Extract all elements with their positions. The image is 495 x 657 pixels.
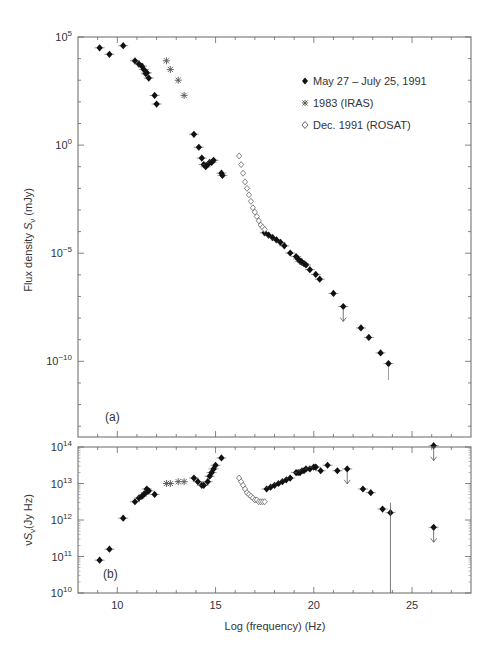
x-tick-label: 25 xyxy=(406,599,418,611)
filled-diamond-marker xyxy=(334,467,340,474)
filled-diamond-marker xyxy=(344,465,350,472)
filled-diamond-marker xyxy=(368,489,374,496)
panel-b-frame xyxy=(78,447,471,593)
filled-diamond-marker xyxy=(151,92,157,99)
filled-diamond-icon xyxy=(302,78,308,85)
open-diamond-marker xyxy=(237,153,242,159)
y-tick-label: 100 xyxy=(55,137,72,151)
open-diamond-marker xyxy=(240,170,245,176)
y-tick-label: 1014 xyxy=(51,439,73,453)
open-diamond-marker xyxy=(246,192,251,198)
y-tick-label: 105 xyxy=(55,29,72,43)
filled-diamond-marker xyxy=(106,546,112,553)
filled-diamond-marker xyxy=(153,100,159,107)
x-tick-label: 10 xyxy=(111,599,123,611)
x-tick-label: 15 xyxy=(209,599,221,611)
asterisk-marker xyxy=(167,480,174,487)
filled-diamond-marker xyxy=(358,324,364,331)
filled-diamond-marker xyxy=(120,515,126,522)
panel-a: 10510010−510−10 (a) Flux density Sν (mJy… xyxy=(22,29,471,461)
panel-a-ylabel: Flux density Sν (mJy) xyxy=(22,188,37,292)
legend-label: 1983 (IRAS) xyxy=(313,97,374,109)
filled-diamond-marker xyxy=(379,505,385,512)
filled-diamond-marker xyxy=(96,44,102,51)
filled-diamond-marker xyxy=(307,266,313,273)
asterisk-marker xyxy=(181,92,188,99)
filled-diamond-marker xyxy=(366,334,372,341)
open-diamond-marker xyxy=(238,162,243,168)
legend: May 27 – July 25, 1991 1983 (IRAS) Dec. … xyxy=(302,75,427,131)
y-tick-label: 1011 xyxy=(51,549,72,563)
panel-b-ylabel: νSν(Jy Hz) xyxy=(22,494,37,546)
panel-a-ytick-labels: 10510010−510−10 xyxy=(46,29,72,367)
legend-item-rosat-1991: Dec. 1991 (ROSAT) xyxy=(302,119,411,131)
y-tick-label: 10−10 xyxy=(46,353,72,367)
legend-label: May 27 – July 25, 1991 xyxy=(313,75,427,87)
filled-diamond-marker xyxy=(151,491,157,498)
panel-b-ytick-labels: 10141013101210111010 xyxy=(51,439,73,599)
legend-item-may-july-1991: May 27 – July 25, 1991 xyxy=(302,75,427,87)
filled-diamond-marker xyxy=(377,349,383,356)
x-tick-labels: 10152025 xyxy=(111,599,418,611)
filled-diamond-marker xyxy=(385,360,391,367)
asterisk-marker xyxy=(163,57,170,64)
filled-diamond-marker xyxy=(430,524,436,531)
asterisk-icon xyxy=(302,100,308,106)
y-tick-label: 1013 xyxy=(51,476,73,490)
y-tick-label: 10−5 xyxy=(51,245,73,259)
panel-b-data-points xyxy=(95,454,439,593)
panel-b: 10141013101210111010 10152025 (b) νSν(Jy… xyxy=(22,439,471,632)
open-diamond-icon xyxy=(302,122,308,129)
filled-diamond-marker xyxy=(96,557,102,564)
legend-item-iras-1983: 1983 (IRAS) xyxy=(302,97,374,109)
filled-diamond-marker xyxy=(317,467,323,474)
filled-diamond-marker xyxy=(287,249,293,256)
panel-b-label: (b) xyxy=(103,567,118,581)
asterisk-marker xyxy=(181,478,188,485)
panel-a-data-points xyxy=(95,42,439,461)
filled-diamond-marker xyxy=(199,154,205,161)
filled-diamond-marker xyxy=(316,276,322,283)
panel-b-ticks xyxy=(78,447,471,593)
panel-a-label: (a) xyxy=(105,410,120,424)
filled-diamond-marker xyxy=(191,131,197,138)
asterisk-marker xyxy=(175,77,182,84)
filled-diamond-marker xyxy=(218,454,224,461)
open-diamond-marker xyxy=(244,185,249,191)
sed-figure: 10510010−510−10 (a) Flux density Sν (mJy… xyxy=(0,0,495,657)
filled-diamond-marker xyxy=(196,144,202,151)
filled-diamond-marker xyxy=(340,303,346,310)
open-diamond-marker xyxy=(248,198,253,204)
filled-diamond-marker xyxy=(106,51,112,58)
filled-diamond-marker xyxy=(324,462,330,469)
filled-diamond-marker xyxy=(120,42,126,49)
x-axis-label: Log (frequency) (Hz) xyxy=(225,620,326,632)
legend-label: Dec. 1991 (ROSAT) xyxy=(313,119,411,131)
filled-diamond-marker xyxy=(360,485,366,492)
y-tick-label: 1012 xyxy=(51,512,73,526)
asterisk-marker xyxy=(167,66,174,73)
open-diamond-marker xyxy=(242,179,247,185)
filled-diamond-marker xyxy=(330,290,336,297)
x-tick-label: 20 xyxy=(308,599,320,611)
filled-diamond-marker xyxy=(313,271,319,278)
y-tick-label: 1010 xyxy=(51,585,73,599)
